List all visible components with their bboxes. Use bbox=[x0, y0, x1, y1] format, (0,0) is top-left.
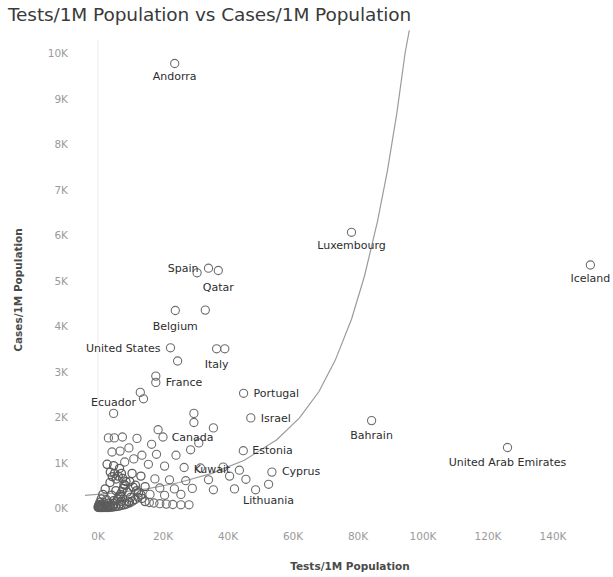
x-tick-label: 140K bbox=[540, 530, 568, 542]
point-label-cyprus: Cyprus bbox=[282, 465, 321, 478]
y-tick-label: 2K bbox=[54, 411, 69, 423]
y-axis-ticks: 0K1K2K3K4K5K6K7K8K9K10K bbox=[48, 47, 69, 514]
data-point[interactable] bbox=[148, 440, 156, 448]
x-axis-title: Tests/1M Population bbox=[290, 560, 410, 572]
x-tick-label: 60K bbox=[283, 530, 304, 542]
x-tick-label: 120K bbox=[475, 530, 503, 542]
x-tick-label: 20K bbox=[153, 530, 174, 542]
y-tick-label: 9K bbox=[54, 93, 69, 105]
data-point[interactable] bbox=[268, 468, 276, 476]
data-point[interactable] bbox=[180, 463, 188, 471]
data-point[interactable] bbox=[586, 261, 594, 269]
data-point[interactable] bbox=[110, 409, 118, 417]
data-point[interactable] bbox=[136, 388, 144, 396]
y-tick-label: 0K bbox=[54, 502, 69, 514]
data-point[interactable] bbox=[138, 451, 146, 459]
data-point[interactable] bbox=[144, 460, 152, 468]
data-point[interactable] bbox=[201, 306, 209, 314]
point-label-united-arab-emirates: United Arab Emirates bbox=[449, 456, 567, 469]
y-tick-label: 5K bbox=[54, 275, 69, 287]
data-point[interactable] bbox=[152, 378, 160, 386]
y-axis-title: Cases/1M Population bbox=[12, 228, 24, 352]
data-point[interactable] bbox=[161, 462, 169, 470]
data-point[interactable] bbox=[213, 345, 221, 353]
x-tick-label: 100K bbox=[410, 530, 438, 542]
point-label-lithuania: Lithuania bbox=[243, 494, 294, 507]
point-label-france: France bbox=[166, 376, 203, 389]
data-point[interactable] bbox=[174, 357, 182, 365]
data-point[interactable] bbox=[247, 414, 255, 422]
x-tick-label: 40K bbox=[218, 530, 239, 542]
data-point[interactable] bbox=[190, 409, 198, 417]
data-point[interactable] bbox=[154, 426, 162, 434]
data-point[interactable] bbox=[125, 444, 133, 452]
plot-area: 0K1K2K3K4K5K6K7K8K9K10K 0K20K40K60K80K10… bbox=[0, 0, 613, 577]
point-label-ecuador: Ecuador bbox=[91, 396, 136, 409]
data-point[interactable] bbox=[104, 434, 112, 442]
trend-line-path bbox=[85, 30, 409, 495]
data-point[interactable] bbox=[133, 434, 141, 442]
point-label-portugal: Portugal bbox=[254, 387, 300, 400]
data-point[interactable] bbox=[151, 475, 159, 483]
data-point[interactable] bbox=[139, 395, 147, 403]
y-tick-label: 3K bbox=[54, 366, 69, 378]
point-label-kuwait: Kuwait bbox=[194, 463, 231, 476]
point-label-canada: Canada bbox=[172, 431, 214, 444]
data-point[interactable] bbox=[239, 447, 247, 455]
data-point[interactable] bbox=[165, 476, 173, 484]
data-point[interactable] bbox=[152, 450, 160, 458]
data-point[interactable] bbox=[116, 447, 124, 455]
x-axis-ticks: 0K20K40K60K80K100K120K140K bbox=[91, 530, 567, 542]
data-point[interactable] bbox=[171, 306, 179, 314]
data-point[interactable] bbox=[187, 446, 195, 454]
data-point[interactable] bbox=[368, 417, 376, 425]
data-point[interactable] bbox=[242, 475, 250, 483]
data-point[interactable] bbox=[185, 501, 193, 509]
data-point[interactable] bbox=[161, 491, 169, 499]
data-point[interactable] bbox=[265, 480, 273, 488]
data-point[interactable] bbox=[137, 472, 145, 480]
trend-line bbox=[85, 30, 409, 495]
data-point[interactable] bbox=[146, 490, 154, 498]
point-label-luxembourg: Luxembourg bbox=[317, 239, 386, 252]
data-point[interactable] bbox=[118, 433, 126, 441]
data-point[interactable] bbox=[159, 433, 167, 441]
point-label-belgium: Belgium bbox=[153, 320, 198, 333]
data-point[interactable] bbox=[503, 443, 511, 451]
point-labels: AndorraLuxembourgIcelandSpainQatarBelgiu… bbox=[86, 70, 610, 508]
data-point[interactable] bbox=[190, 418, 198, 426]
data-point[interactable] bbox=[172, 451, 180, 459]
point-label-estonia: Estonia bbox=[252, 444, 292, 457]
data-point[interactable] bbox=[235, 466, 243, 474]
data-point[interactable] bbox=[130, 455, 138, 463]
x-tick-label: 0K bbox=[91, 530, 106, 542]
data-point[interactable] bbox=[204, 476, 212, 484]
y-tick-label: 10K bbox=[48, 47, 69, 59]
data-point[interactable] bbox=[171, 59, 179, 67]
data-point[interactable] bbox=[252, 486, 260, 494]
point-label-qatar: Qatar bbox=[203, 281, 234, 294]
data-point[interactable] bbox=[166, 344, 174, 352]
data-point[interactable] bbox=[240, 389, 248, 397]
point-label-andorra: Andorra bbox=[153, 70, 197, 83]
data-point[interactable] bbox=[209, 486, 217, 494]
data-point[interactable] bbox=[221, 345, 229, 353]
data-point[interactable] bbox=[108, 448, 116, 456]
y-tick-label: 7K bbox=[54, 184, 69, 196]
point-label-spain: Spain bbox=[168, 262, 199, 275]
data-point[interactable] bbox=[128, 469, 136, 477]
point-label-bahrain: Bahrain bbox=[350, 429, 393, 442]
data-point[interactable] bbox=[188, 484, 196, 492]
point-label-italy: Italy bbox=[205, 358, 229, 371]
data-point[interactable] bbox=[177, 490, 185, 498]
data-point[interactable] bbox=[156, 484, 164, 492]
data-point[interactable] bbox=[230, 485, 238, 493]
point-label-iceland: Iceland bbox=[570, 272, 610, 285]
data-point[interactable] bbox=[214, 266, 222, 274]
data-point[interactable] bbox=[177, 501, 185, 509]
y-tick-label: 4K bbox=[54, 320, 69, 332]
data-points bbox=[94, 59, 594, 511]
y-tick-label: 8K bbox=[54, 138, 69, 150]
data-point[interactable] bbox=[204, 264, 212, 272]
data-point[interactable] bbox=[347, 228, 355, 236]
